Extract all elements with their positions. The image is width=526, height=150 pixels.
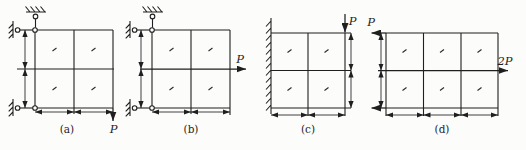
pin-circle-icon [132,28,137,33]
pin-circle-icon [15,106,20,111]
wall-pin-support-bottom-icon [126,99,150,116]
pin-circle-icon [132,106,137,111]
frame-grid [386,33,498,116]
ceiling-pin-support-icon [26,7,47,28]
pin-circle-icon [15,28,20,33]
pin-circle-icon [33,14,38,19]
panel-a: P (a) [9,7,118,137]
load-arrow-left-top: P [366,15,386,33]
frame-grid [17,30,114,114]
load-label: 2P [496,54,512,68]
frame-grid [152,30,230,115]
fixed-wall-hatch-icon [266,18,271,114]
hinge-icon [150,106,155,111]
load-label: P [366,15,375,29]
load-label: P [348,14,357,28]
load-label: P [235,52,244,66]
ground-hatch-icon [126,21,130,38]
wall-pin-support-top-icon [9,21,33,38]
ceiling-pin-support-icon [143,7,164,28]
panel-caption: (c) [301,123,315,135]
frame-grid [271,33,351,116]
hinge-icon [150,28,155,33]
panel-b: P (b) [126,7,246,136]
ground-hatch-icon [9,21,13,38]
ground-hatch-icon [143,7,164,13]
figure-canvas: P (a) P [0,0,526,150]
pin-circle-icon [150,14,155,19]
ground-hatch-icon [9,99,13,116]
hinge-icon [33,106,38,111]
panel-d: P 2P (d) [366,15,513,135]
ground-hatch-icon [126,99,130,116]
load-arrow-right: 2P [378,54,513,71]
structural-diagram-svg: P (a) P [0,0,526,150]
load-label: P [109,122,118,136]
wall-pin-support-bottom-icon [9,99,33,116]
ground-hatch-icon [26,7,47,13]
wall-pin-support-top-icon [126,21,150,38]
hinge-icon [33,28,38,33]
panel-c: P (c) [266,14,357,135]
panel-caption: (d) [435,123,450,135]
panel-caption: (a) [60,123,74,135]
panel-caption: (b) [184,123,199,135]
load-arrow-down: P [345,14,357,33]
